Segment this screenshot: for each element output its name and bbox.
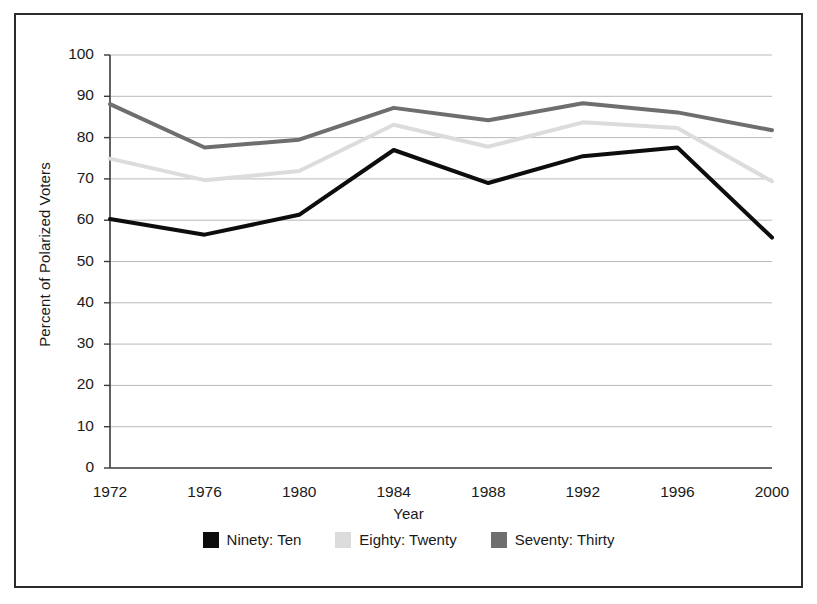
legend-swatch-icon <box>203 532 219 548</box>
chart-legend: Ninety: TenEighty: TwentySeventy: Thirty <box>0 531 817 548</box>
y-tick-label: 50 <box>48 252 94 270</box>
y-tick-label: 100 <box>48 45 94 63</box>
gridlines <box>110 55 772 468</box>
axis-lines <box>104 55 110 468</box>
x-tick-label: 1972 <box>75 483 145 501</box>
legend-label: Eighty: Twenty <box>359 531 456 548</box>
y-tick-label: 0 <box>48 458 94 476</box>
x-tick-label: 2000 <box>737 483 807 501</box>
y-tick-label: 10 <box>48 417 94 435</box>
y-tick-label: 40 <box>48 293 94 311</box>
legend-item: Eighty: Twenty <box>335 531 456 548</box>
legend-swatch-icon <box>335 532 351 548</box>
y-tick-label: 30 <box>48 334 94 352</box>
x-tick-label: 1980 <box>264 483 334 501</box>
legend-item: Seventy: Thirty <box>491 531 615 548</box>
legend-label: Seventy: Thirty <box>515 531 615 548</box>
y-tick-label: 90 <box>48 86 94 104</box>
x-tick-label: 1996 <box>642 483 712 501</box>
x-tick-label: 1984 <box>359 483 429 501</box>
legend-label: Ninety: Ten <box>227 531 302 548</box>
legend-swatch-icon <box>491 532 507 548</box>
y-tick-label: 80 <box>48 128 94 146</box>
series-line-seventy-thirty <box>110 103 772 147</box>
data-series-group <box>110 103 772 237</box>
y-tick-label: 60 <box>48 210 94 228</box>
series-line-eighty-twenty <box>110 122 772 181</box>
chart-figure: Percent of Polarized Voters Year 0102030… <box>0 0 817 604</box>
series-line-ninety-ten <box>110 148 772 238</box>
x-tick-label: 1992 <box>548 483 618 501</box>
x-axis-title: Year <box>0 505 817 522</box>
y-tick-label: 20 <box>48 375 94 393</box>
y-tick-label: 70 <box>48 169 94 187</box>
x-tick-label: 1976 <box>170 483 240 501</box>
x-tick-label: 1988 <box>453 483 523 501</box>
legend-item: Ninety: Ten <box>203 531 302 548</box>
